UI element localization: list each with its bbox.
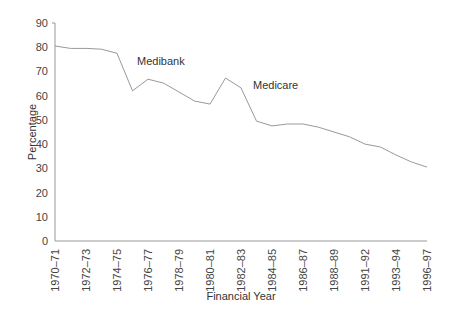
x-tick-label: 1993–94 [390,249,402,292]
annotation-medicare: Medicare [253,79,298,91]
x-tick-label: 1988–89 [328,249,340,292]
x-tick-label: 1976–77 [142,249,154,292]
y-axis-title: Percentage [26,104,38,160]
y-tick-label: 0 [42,235,48,247]
y-tick-label: 30 [36,162,48,174]
x-axis-title: Financial Year [206,290,275,302]
y-tick-label: 60 [36,90,48,102]
x-tick-label: 1991–92 [359,249,371,292]
x-tick-label: 1978–79 [173,249,185,292]
x-tick-label: 1986–87 [297,249,309,292]
annotation-medibank: Medibank [137,55,185,67]
x-axis-ticks: 1970–711972–731974–751976–771978–791980–… [49,249,433,292]
x-tick-label: 1984–85 [266,249,278,292]
y-tick-label: 10 [36,211,48,223]
series-line [55,46,427,167]
x-tick-label: 1972–73 [80,249,92,292]
x-tick-label: 1970–71 [49,249,61,292]
line-chart: 0102030405060708090 1970–711972–731974–7… [0,0,452,315]
y-tick-label: 20 [36,187,48,199]
y-tick-label: 80 [36,41,48,53]
y-tick-label: 70 [36,65,48,77]
y-tick-label: 90 [36,17,48,29]
x-tick-label: 1982–83 [235,249,247,292]
x-tick-label: 1996–97 [421,249,433,292]
x-tick-label: 1974–75 [111,249,123,292]
x-tick-label: 1980–81 [204,249,216,292]
